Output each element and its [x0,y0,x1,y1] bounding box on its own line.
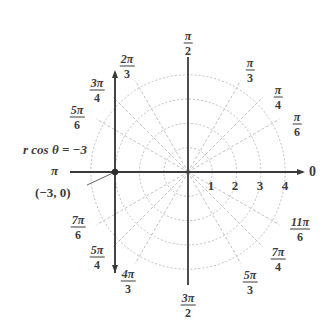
grid-ray-135deg [113,97,188,172]
angle-label-pi-over-3: π3 [246,57,255,84]
angle-label-3pi-over-4: 3π4 [90,77,105,104]
angle-label-3pi-over-2: 3π2 [181,292,196,319]
angle-label-7pi-over-6: 7π6 [71,214,86,241]
angle-label-pi: π [51,164,58,177]
radial-tick-2: 2 [232,178,239,194]
point-neg3-0 [112,169,118,175]
angle-label-pi-over-4: π4 [274,84,283,111]
grid-ray-225deg [113,172,188,247]
angle-label-5pi-over-3: 5π3 [243,269,258,296]
angle-label-5pi-over-4: 5π4 [90,244,105,271]
grid-ray-210deg [96,172,188,225]
grid-ray-315deg [188,172,263,247]
radial-tick-3: 3 [257,178,264,194]
radial-tick-4: 4 [282,178,289,194]
angle-label-2pi-over-3: 2π3 [120,53,135,80]
polar-grid-plot [0,0,332,336]
grid-ray-120deg [135,80,188,172]
angle-label-4pi-over-3: 4π3 [121,268,136,295]
radial-tick-1: 1 [208,178,215,194]
equation-label: r cos θ = −3 [23,143,87,156]
angle-label-7pi-over-4: 7π4 [271,246,286,273]
point-leader-line [87,172,115,185]
angle-label-pi-over-6: π6 [293,111,302,138]
grid-ray-30deg [188,119,280,172]
grid-ray-150deg [96,119,188,172]
grid-ray-60deg [188,80,241,172]
point-label: (−3, 0) [35,186,71,199]
grid-ray-240deg [135,172,188,264]
angle-label-pi-over-2: π2 [184,30,193,57]
angle-label-11pi-over-6: 11π6 [290,216,310,243]
angle-label-5pi-over-6: 5π6 [70,104,85,131]
polar-axis-label-0: 0 [309,165,316,179]
grid-ray-45deg [188,97,263,172]
